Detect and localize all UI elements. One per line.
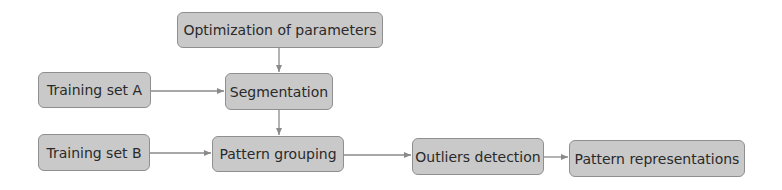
node-label: Training set A — [47, 82, 142, 98]
node-label: Optimization of parameters — [183, 22, 376, 38]
node-segmentation: Segmentation — [225, 73, 333, 110]
node-label: Segmentation — [230, 84, 328, 100]
node-optimization-of-parameters: Optimization of parameters — [177, 12, 383, 48]
node-label: Pattern grouping — [219, 146, 336, 162]
node-outliers-detection: Outliers detection — [412, 138, 544, 175]
node-label: Pattern representations — [575, 151, 740, 167]
node-label: Outliers detection — [415, 149, 540, 165]
node-training-set-a: Training set A — [38, 72, 151, 108]
node-pattern-grouping: Pattern grouping — [212, 136, 344, 172]
node-label: Training set B — [46, 145, 141, 161]
node-training-set-b: Training set B — [38, 134, 150, 171]
node-pattern-representations: Pattern representations — [569, 140, 745, 177]
